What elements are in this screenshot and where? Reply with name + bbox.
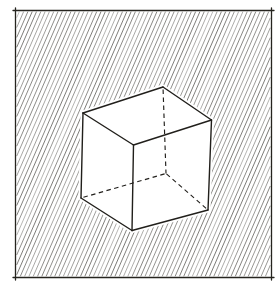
cube-figure-svg	[0, 0, 278, 285]
figure-canvas	[0, 0, 278, 285]
cube-silhouette	[81, 87, 212, 231]
